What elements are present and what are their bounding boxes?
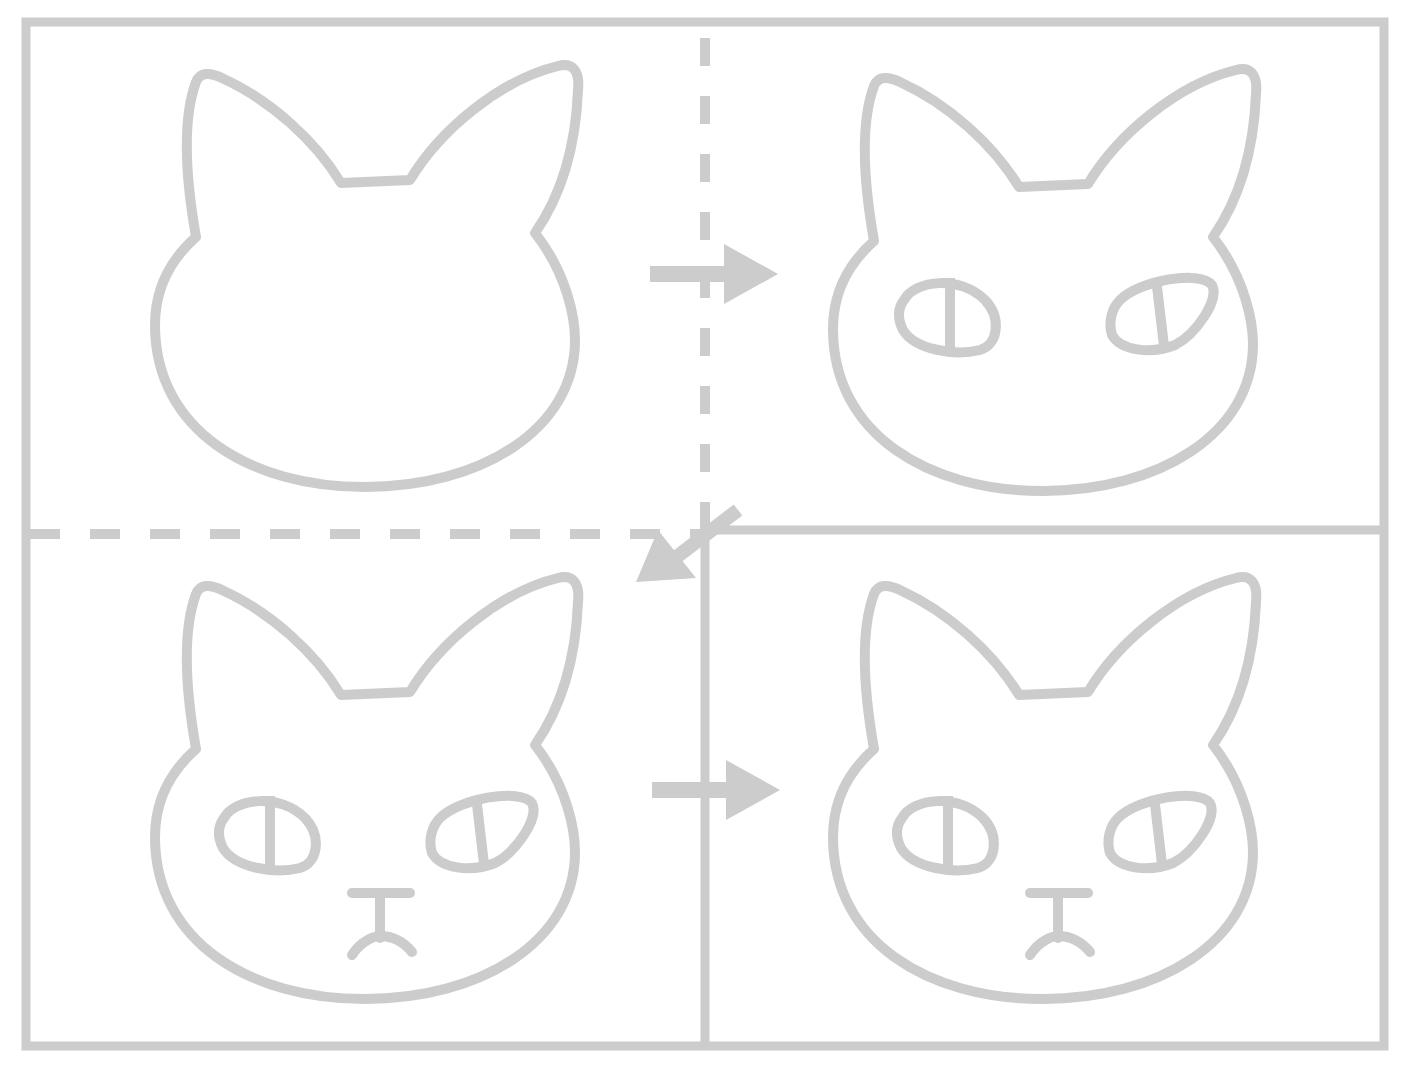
step-3-cat-with-face — [155, 577, 578, 999]
arrow-right-icon — [652, 760, 780, 820]
cat-drawing-steps-diagram — [0, 0, 1402, 1068]
arrow-down-left-icon — [636, 510, 738, 582]
step-2-cat-with-eyes — [833, 69, 1256, 491]
step-1-cat-head-outline — [155, 65, 578, 487]
step-4-cat-complete — [833, 577, 1256, 999]
arrow-right-icon — [650, 244, 778, 304]
